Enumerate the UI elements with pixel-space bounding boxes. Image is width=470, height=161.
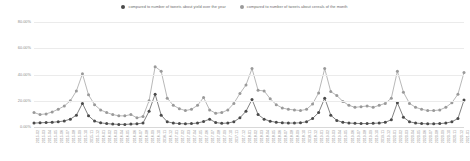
- data-point[interactable]: [160, 70, 163, 73]
- data-point[interactable]: [226, 108, 229, 111]
- data-point[interactable]: [329, 114, 332, 117]
- data-point[interactable]: [341, 121, 344, 124]
- data-point[interactable]: [287, 122, 290, 125]
- data-point[interactable]: [154, 93, 157, 96]
- data-point[interactable]: [366, 122, 369, 125]
- data-point[interactable]: [202, 120, 205, 123]
- data-point[interactable]: [384, 121, 387, 124]
- data-point[interactable]: [63, 119, 66, 122]
- data-point[interactable]: [178, 107, 181, 110]
- data-point[interactable]: [384, 102, 387, 105]
- data-point[interactable]: [99, 108, 102, 111]
- data-point[interactable]: [378, 104, 381, 107]
- data-point[interactable]: [214, 112, 217, 115]
- data-point[interactable]: [360, 105, 363, 108]
- data-point[interactable]: [33, 111, 36, 114]
- data-point[interactable]: [105, 111, 108, 114]
- data-point[interactable]: [305, 108, 308, 111]
- data-point[interactable]: [105, 122, 108, 125]
- data-point[interactable]: [75, 114, 78, 117]
- data-point[interactable]: [148, 110, 151, 113]
- data-point[interactable]: [57, 120, 60, 123]
- data-point[interactable]: [311, 103, 314, 106]
- data-point[interactable]: [317, 91, 320, 94]
- data-point[interactable]: [39, 121, 42, 124]
- data-point[interactable]: [33, 122, 36, 125]
- data-point[interactable]: [281, 121, 284, 124]
- data-point[interactable]: [232, 102, 235, 105]
- data-point[interactable]: [275, 103, 278, 106]
- data-point[interactable]: [135, 122, 138, 125]
- data-point[interactable]: [123, 114, 126, 117]
- data-point[interactable]: [251, 67, 254, 70]
- data-point[interactable]: [293, 108, 296, 111]
- data-point[interactable]: [226, 122, 229, 125]
- data-point[interactable]: [305, 120, 308, 123]
- data-point[interactable]: [190, 108, 193, 111]
- data-point[interactable]: [166, 97, 169, 100]
- data-point[interactable]: [117, 114, 120, 117]
- data-point[interactable]: [317, 111, 320, 114]
- data-point[interactable]: [184, 122, 187, 125]
- data-point[interactable]: [196, 104, 199, 107]
- data-point[interactable]: [329, 90, 332, 93]
- data-point[interactable]: [347, 104, 350, 107]
- data-point[interactable]: [414, 122, 417, 125]
- data-point[interactable]: [135, 116, 138, 119]
- data-point[interactable]: [87, 93, 90, 96]
- data-point[interactable]: [444, 106, 447, 109]
- data-point[interactable]: [335, 119, 338, 122]
- data-point[interactable]: [129, 123, 132, 126]
- data-point[interactable]: [117, 123, 120, 126]
- data-point[interactable]: [123, 123, 126, 126]
- data-point[interactable]: [360, 122, 363, 125]
- data-point[interactable]: [166, 120, 169, 123]
- data-point[interactable]: [420, 108, 423, 111]
- data-point[interactable]: [456, 117, 459, 120]
- data-point[interactable]: [372, 122, 375, 125]
- data-point[interactable]: [275, 121, 278, 124]
- data-point[interactable]: [220, 122, 223, 125]
- data-point[interactable]: [335, 94, 338, 97]
- data-point[interactable]: [69, 118, 72, 121]
- data-point[interactable]: [293, 122, 296, 125]
- data-point[interactable]: [202, 96, 205, 99]
- data-point[interactable]: [190, 122, 193, 125]
- data-point[interactable]: [438, 108, 441, 111]
- data-point[interactable]: [142, 122, 145, 125]
- data-point[interactable]: [154, 65, 157, 68]
- data-point[interactable]: [208, 108, 211, 111]
- data-point[interactable]: [323, 97, 326, 100]
- data-point[interactable]: [232, 120, 235, 123]
- data-point[interactable]: [257, 89, 260, 92]
- data-point[interactable]: [456, 93, 459, 96]
- data-point[interactable]: [402, 116, 405, 119]
- data-point[interactable]: [81, 102, 84, 105]
- data-point[interactable]: [372, 106, 375, 109]
- data-point[interactable]: [408, 102, 411, 105]
- data-point[interactable]: [390, 97, 393, 100]
- data-point[interactable]: [299, 109, 302, 112]
- data-point[interactable]: [196, 122, 199, 125]
- data-point[interactable]: [390, 118, 393, 121]
- data-point[interactable]: [257, 113, 260, 116]
- data-point[interactable]: [311, 117, 314, 120]
- data-point[interactable]: [366, 105, 369, 108]
- data-point[interactable]: [39, 113, 42, 116]
- data-point[interactable]: [438, 122, 441, 125]
- data-point[interactable]: [426, 109, 429, 112]
- data-point[interactable]: [45, 112, 48, 115]
- data-point[interactable]: [244, 84, 247, 87]
- data-point[interactable]: [432, 109, 435, 112]
- data-point[interactable]: [99, 121, 102, 124]
- data-point[interactable]: [111, 123, 114, 126]
- data-point[interactable]: [353, 106, 356, 109]
- data-point[interactable]: [420, 122, 423, 125]
- data-point[interactable]: [347, 122, 350, 125]
- data-point[interactable]: [93, 103, 96, 106]
- data-point[interactable]: [287, 108, 290, 111]
- data-point[interactable]: [263, 89, 266, 92]
- data-point[interactable]: [160, 114, 163, 117]
- data-point[interactable]: [111, 113, 114, 116]
- data-point[interactable]: [51, 121, 54, 124]
